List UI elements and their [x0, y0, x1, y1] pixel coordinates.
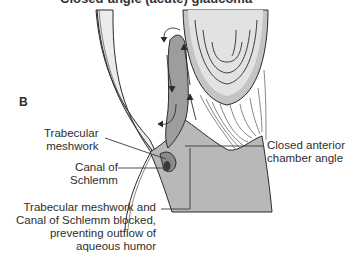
label-closed-anterior-chamber-angle: Closed anterior chamber angle: [267, 139, 345, 165]
lens: [183, 10, 268, 105]
label-trabecular-meshwork: Trabecular meshwork: [44, 127, 99, 153]
label-blocked-outflow: Trabecular meshwork and Canal of Schlemm…: [6, 201, 156, 253]
glaucoma-diagram: Closed-angle (acute) glaucoma: [0, 0, 351, 263]
label-canal-of-schlemm: Canal of Schlemm: [70, 161, 118, 187]
canal-of-schlemm: [164, 161, 171, 171]
cornea: [96, 10, 163, 230]
panel-label: B: [19, 96, 28, 109]
